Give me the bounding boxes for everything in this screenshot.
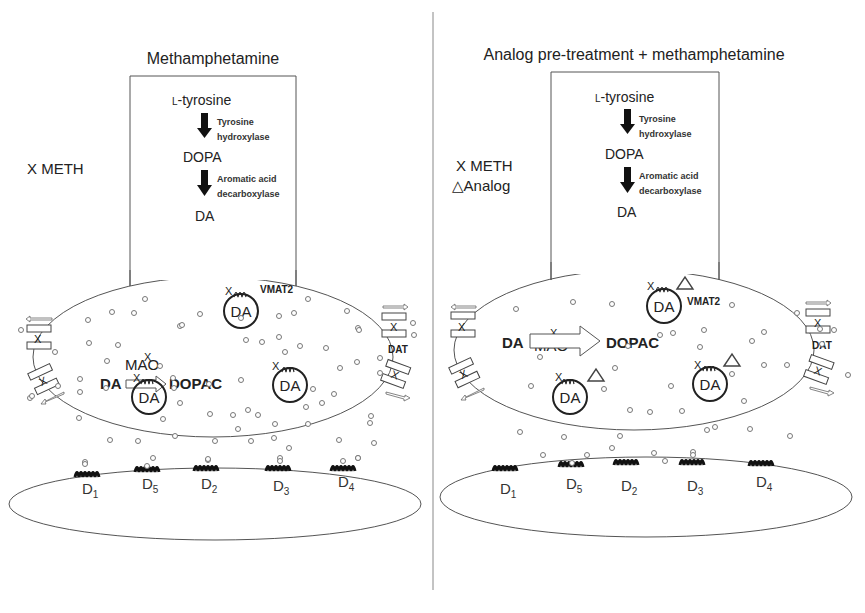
dopamine-molecule-dot	[78, 377, 83, 382]
dopamine-receptor-d4: D4	[749, 462, 773, 494]
bound-dopamine-dot	[278, 459, 283, 464]
dopamine-molecule-dot	[742, 399, 747, 404]
dopamine-molecule-dot	[762, 330, 767, 335]
dopamine-molecule-dot	[86, 318, 91, 323]
dopamine-receptor-d2: D2	[194, 467, 218, 496]
dopamine-molecule-dot	[378, 356, 383, 361]
dopamine-molecule-dot	[338, 366, 343, 371]
dopamine-receptors: D1D5D2D3D4	[75, 456, 361, 501]
panel-title: Methamphetamine	[147, 50, 280, 67]
dopamine-molecule-dot	[277, 335, 282, 340]
molecule-dopa: DOPA	[183, 149, 222, 165]
vesicle: DA X VMAT2	[647, 277, 721, 323]
dopamine-molecule-dot	[298, 344, 303, 349]
dopamine-molecule-dot	[541, 453, 546, 458]
presynaptic-terminal	[33, 277, 393, 437]
dopamine-molecule-dot	[529, 384, 534, 389]
dopamine-molecule-dot	[846, 373, 851, 378]
dopamine-molecule-dot	[750, 339, 755, 344]
receptor-label: D5	[566, 475, 583, 495]
panel-title: Analog pre-treatment + methamphetamine	[483, 46, 784, 63]
dopamine-molecule-dot	[256, 413, 261, 418]
receptor-icon	[194, 467, 218, 472]
dopamine-molecule-dot	[369, 414, 374, 419]
enzyme-aromatic-acid-decarboxylase-line1: Aromatic acid	[639, 171, 699, 181]
receptor-icon	[266, 467, 290, 472]
vesicle: DA X	[553, 369, 604, 414]
dopamine-molecule-dot	[762, 363, 767, 368]
dopamine-molecule-dot	[292, 311, 297, 316]
dopamine-molecule-dot	[260, 340, 265, 345]
substrate-da: DA	[502, 334, 524, 351]
dopamine-receptor-d5: D5	[135, 468, 159, 496]
dopamine-molecule-dot	[368, 421, 373, 426]
postsynaptic-membrane	[9, 468, 421, 540]
panel-right: Analog pre-treatment + methamphetamine X…	[440, 46, 852, 537]
receptor-label: D4	[756, 473, 773, 493]
legend-meth: X METH	[456, 157, 513, 174]
dopamine-molecule-dot	[207, 382, 212, 387]
dopamine-molecule-dot	[378, 371, 383, 376]
analog-triangle-icon	[724, 354, 740, 366]
dopamine-molecule-dot	[663, 459, 668, 464]
dopamine-molecule-dot	[53, 350, 58, 355]
vesicle: DA X	[132, 372, 166, 414]
dopamine-molecule-dot	[788, 434, 793, 439]
dopamine-molecule-dot	[272, 436, 277, 441]
dopamine-molecule-dot	[411, 321, 416, 326]
dopamine-molecule-dot	[273, 422, 278, 427]
dopamine-molecule-dot	[602, 387, 607, 392]
receptor-label: D4	[338, 473, 355, 493]
vmat2-label: VMAT2	[687, 296, 721, 307]
enzyme-tyrosine-hydroxylase-line1: Tyrosine	[639, 114, 676, 124]
receptor-label: D2	[201, 475, 218, 495]
legend: X METH	[27, 160, 84, 177]
dopamine-molecule-dot	[231, 413, 236, 418]
dopamine-molecule-dot	[287, 446, 292, 451]
dopamine-molecule-dot	[198, 312, 203, 317]
dopamine-molecule-dot	[158, 364, 163, 369]
dopamine-molecule-dot	[337, 438, 342, 443]
mao-metabolism: X MAO DA DOPAC	[502, 326, 659, 356]
legend-meth: X METH	[27, 160, 84, 177]
dopamine-molecule-dot	[19, 328, 24, 333]
dopamine-synapse-diagram: Methamphetamine X METH L-tyrosine Tyrosi…	[0, 0, 865, 613]
enzyme-tyrosine-hydroxylase-line2: hydroxylase	[639, 129, 692, 139]
dat-transporter-right: X DAT X	[381, 304, 411, 401]
receptor-icon	[493, 467, 517, 472]
dopamine-receptor-d2: D2	[614, 461, 638, 498]
dopamine-receptor-d3: D3	[680, 461, 704, 498]
dopamine-receptor-d4: D4	[331, 467, 355, 494]
vesicle-da-label: DA	[560, 389, 581, 406]
meth-marker-x: X	[555, 371, 563, 383]
dopamine-molecule-dot	[161, 417, 166, 422]
dopamine-molecule-dot	[104, 386, 109, 391]
receptor-icon	[614, 461, 638, 466]
dopamine-molecule-dot	[180, 323, 185, 328]
dopamine-molecule-dot	[277, 314, 282, 319]
vesicle-da-label: DA	[700, 376, 721, 393]
dopamine-molecule-dot	[306, 297, 311, 302]
vesicle-da-label: DA	[139, 389, 160, 406]
dopamine-molecule-dot	[345, 309, 350, 314]
bound-dopamine-dot	[652, 451, 657, 456]
dopamine-molecule-dot	[748, 427, 753, 432]
meth-marker-x: X	[694, 359, 702, 371]
analog-triangle-icon	[588, 369, 604, 381]
dopamine-molecule-dot	[311, 387, 316, 392]
dopamine-molecule-dot	[785, 363, 790, 368]
dopamine-molecule-dot	[730, 303, 735, 308]
dopamine-molecule-dot	[713, 425, 718, 430]
receptor-icon	[331, 467, 355, 472]
receptor-label: D2	[621, 477, 638, 497]
receptor-icon	[749, 462, 773, 467]
dopamine-molecule-dot	[613, 366, 618, 371]
dopamine-molecule-dot	[795, 311, 800, 316]
molecule-da: DA	[195, 208, 215, 224]
bound-dopamine-dot	[691, 453, 696, 458]
dopamine-molecule-dot	[236, 427, 241, 432]
dopamine-molecule-dot	[571, 300, 576, 305]
vesicle: DA X	[272, 360, 307, 402]
meth-marker-x: X	[458, 321, 466, 333]
dopamine-molecule-dot	[518, 430, 523, 435]
